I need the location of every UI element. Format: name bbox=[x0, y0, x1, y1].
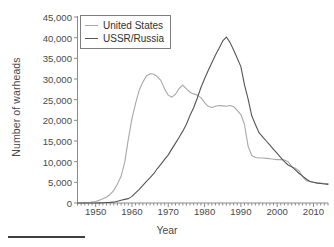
legend-label-united-states: United States bbox=[103, 20, 163, 31]
bottom-rule bbox=[8, 236, 85, 238]
x-tick-label: 1980 bbox=[185, 206, 225, 217]
warheads-line-chart: Number of warheads Year 05,00010,00015,0… bbox=[0, 0, 334, 247]
legend-item-ussr-russia: USSR/Russia bbox=[85, 32, 164, 45]
x-tick-label: 1960 bbox=[112, 206, 152, 217]
x-tick-label: 1990 bbox=[221, 206, 261, 217]
chart-legend: United States USSR/Russia bbox=[80, 15, 171, 49]
x-tick-label: 1950 bbox=[76, 206, 116, 217]
x-tick-label: 2000 bbox=[257, 206, 297, 217]
x-tick-label: 2010 bbox=[293, 206, 333, 217]
legend-item-united-states: United States bbox=[85, 19, 164, 32]
legend-swatch-united-states bbox=[85, 25, 98, 26]
legend-label-ussr-russia: USSR/Russia bbox=[103, 33, 164, 44]
x-tick-label: 1970 bbox=[148, 206, 188, 217]
legend-swatch-ussr-russia bbox=[85, 38, 98, 39]
